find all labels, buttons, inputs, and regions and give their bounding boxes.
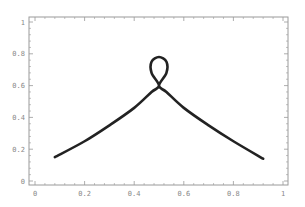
x-tick-label: 0.4 <box>128 190 141 198</box>
data-curve <box>55 57 263 159</box>
x-tick-label: 0 <box>33 190 37 198</box>
x-tick-label: 0.2 <box>78 190 91 198</box>
y-tick-label: 0.8 <box>12 50 25 58</box>
x-tick-label: 1 <box>281 190 285 198</box>
plot-frame <box>29 17 288 185</box>
y-tick-label: 1 <box>21 19 25 27</box>
y-axis-labels: 00.20.40.60.81 <box>12 19 25 186</box>
x-axis-labels: 00.20.40.60.81 <box>33 190 285 198</box>
y-axis-ticks <box>29 22 288 181</box>
y-tick-label: 0.4 <box>12 114 25 122</box>
x-axis-ticks <box>35 17 283 185</box>
y-tick-label: 0.6 <box>12 82 25 90</box>
y-tick-label: 0.2 <box>12 146 25 154</box>
chart: 00.20.40.60.81 00.20.40.60.81 <box>0 0 305 207</box>
y-tick-label: 0 <box>21 178 25 186</box>
x-tick-label: 0.6 <box>177 190 190 198</box>
x-tick-label: 0.8 <box>227 190 240 198</box>
